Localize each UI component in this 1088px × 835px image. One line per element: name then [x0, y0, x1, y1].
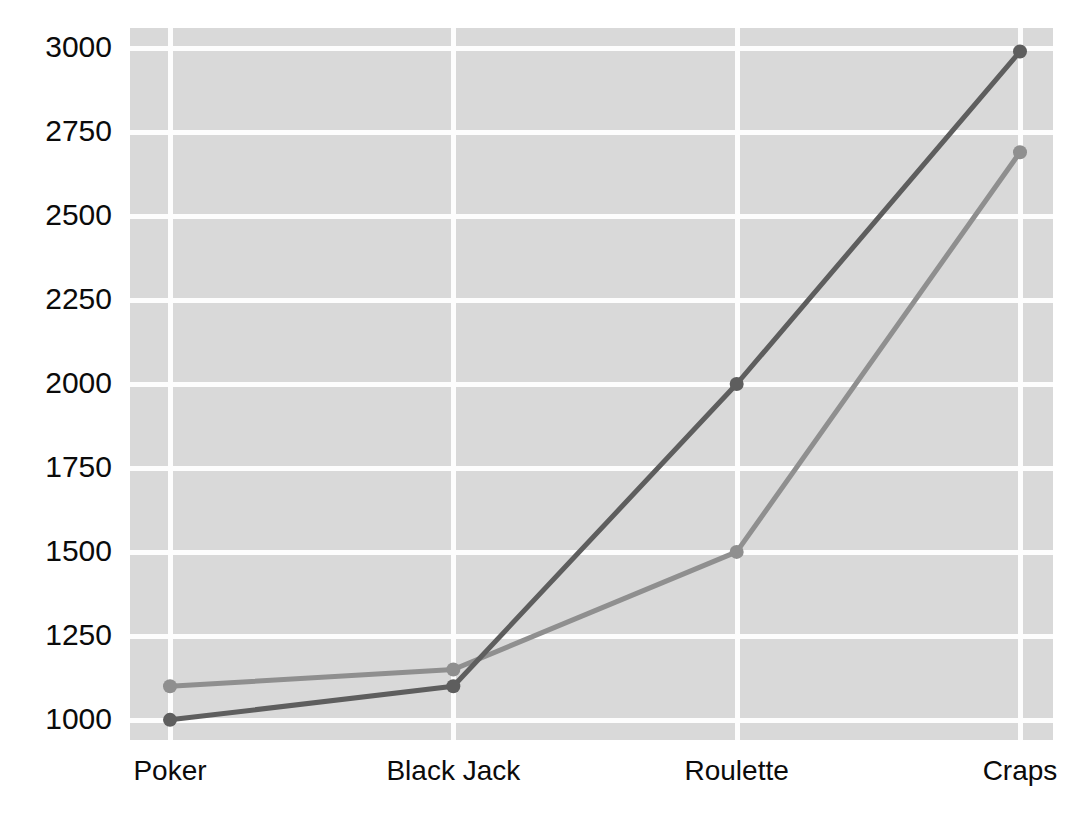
y-tick-label-2250: 2250 — [0, 284, 112, 314]
x-tick-label-black-jack: Black Jack — [386, 757, 520, 785]
plot-area — [130, 28, 1053, 740]
y-tick-label-3000: 3000 — [0, 32, 112, 62]
x-tick-label-roulette: Roulette — [685, 757, 789, 785]
line-chart: 100012501500175020002250250027503000 Pok… — [0, 0, 1088, 835]
y-tick-label-1750: 1750 — [0, 452, 112, 482]
y-tick-label-2000: 2000 — [0, 368, 112, 398]
gridline-h-1500 — [130, 550, 1053, 555]
gridline-h-2750 — [130, 130, 1053, 135]
y-tick-label-1250: 1250 — [0, 620, 112, 650]
gridline-h-1250 — [130, 634, 1053, 639]
gridline-h-2500 — [130, 214, 1053, 219]
gridline-v-black-jack — [451, 28, 456, 740]
gridline-v-roulette — [735, 28, 740, 740]
gridline-v-craps — [1018, 28, 1023, 740]
y-tick-label-2750: 2750 — [0, 116, 112, 146]
gridline-h-1000 — [130, 718, 1053, 723]
y-tick-label-2500: 2500 — [0, 200, 112, 230]
y-tick-label-1500: 1500 — [0, 536, 112, 566]
x-tick-label-craps: Craps — [983, 757, 1058, 785]
gridline-h-2250 — [130, 298, 1053, 303]
gridline-h-2000 — [130, 382, 1053, 387]
y-tick-label-1000: 1000 — [0, 704, 112, 734]
series-line-1 — [170, 152, 1020, 686]
gridline-h-1750 — [130, 466, 1053, 471]
gridline-v-poker — [168, 28, 173, 740]
x-tick-label-poker: Poker — [133, 757, 206, 785]
gridline-h-3000 — [130, 46, 1053, 51]
